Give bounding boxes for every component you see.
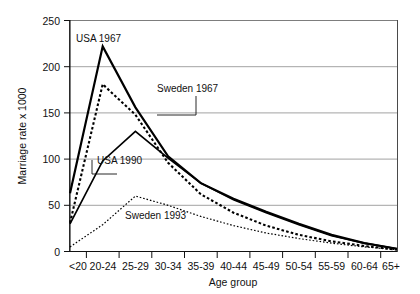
- annotation-label-usa-1990: USA 1990: [97, 155, 142, 166]
- x-tick-label-10: 65+: [382, 260, 400, 272]
- x-tick-label-8: 55-59: [318, 260, 345, 272]
- annotation-label-usa-1967: USA 1967: [76, 33, 121, 44]
- x-tick-label-0: <20: [69, 260, 87, 272]
- x-tick-label-9: 60-64: [351, 260, 378, 272]
- annotation-usa-1967: USA 1967: [76, 33, 121, 44]
- annotation-label-sweden-1993: Sweden 1993: [125, 210, 187, 221]
- y-axis-title-group: Marriage rate x 1000: [16, 87, 28, 184]
- annotation-sweden-1993: Sweden 1993: [125, 210, 187, 221]
- y-tick-label-150: 150: [42, 107, 60, 119]
- x-axis-title-group: Age group: [209, 276, 258, 288]
- y-tick-label-200: 200: [42, 61, 60, 73]
- chart-background: [0, 0, 420, 294]
- x-tick-label-6: 45-49: [253, 260, 280, 272]
- x-tick-label-2: 25-29: [122, 260, 149, 272]
- annotation-label-sweden-1967: Sweden 1967: [157, 83, 219, 94]
- x-tick-label-7: 50-54: [286, 260, 313, 272]
- y-tick-label-0: 0: [54, 246, 60, 258]
- x-tick-label-1: 20-24: [90, 260, 117, 272]
- y-tick-label-250: 250: [42, 15, 60, 27]
- x-tick-label-3: 30-34: [155, 260, 182, 272]
- y-axis-title: Marriage rate x 1000: [16, 87, 28, 184]
- y-tick-label-100: 100: [42, 153, 60, 165]
- x-tick-label-4: 35-39: [187, 260, 214, 272]
- x-tick-label-5: 40-44: [220, 260, 247, 272]
- x-axis-title: Age group: [209, 276, 258, 288]
- chart-svg: 250 200 150 100 50 0 Marriage rate x 100…: [0, 0, 420, 294]
- y-tick-label-50: 50: [48, 199, 60, 211]
- marriage-rate-line-chart: 250 200 150 100 50 0 Marriage rate x 100…: [0, 0, 420, 294]
